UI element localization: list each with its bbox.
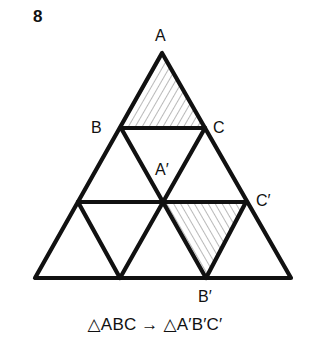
vertex-label-a: A	[155, 28, 166, 44]
figure-caption: △ABC → △A′B′C′	[0, 316, 310, 333]
shaded-triangle-abc	[121, 53, 205, 128]
shaded-triangle-a-prime-b-prime-c-prime	[163, 202, 246, 278]
diagonal-line-2	[78, 202, 120, 278]
vertex-label-c: C	[213, 120, 225, 136]
vertex-label-b: B	[91, 120, 102, 136]
vertex-label-a-prime: A′	[155, 162, 169, 178]
vertex-label-b-prime: B′	[198, 289, 212, 305]
vertex-label-c-prime: C′	[256, 193, 271, 209]
